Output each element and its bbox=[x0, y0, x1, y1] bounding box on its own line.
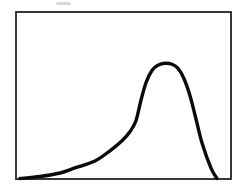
distribution-curve bbox=[20, 63, 217, 178]
plot-frame bbox=[16, 12, 231, 179]
curve-chart bbox=[0, 0, 247, 193]
scan-artifact bbox=[56, 2, 71, 5]
figure bbox=[0, 0, 247, 193]
